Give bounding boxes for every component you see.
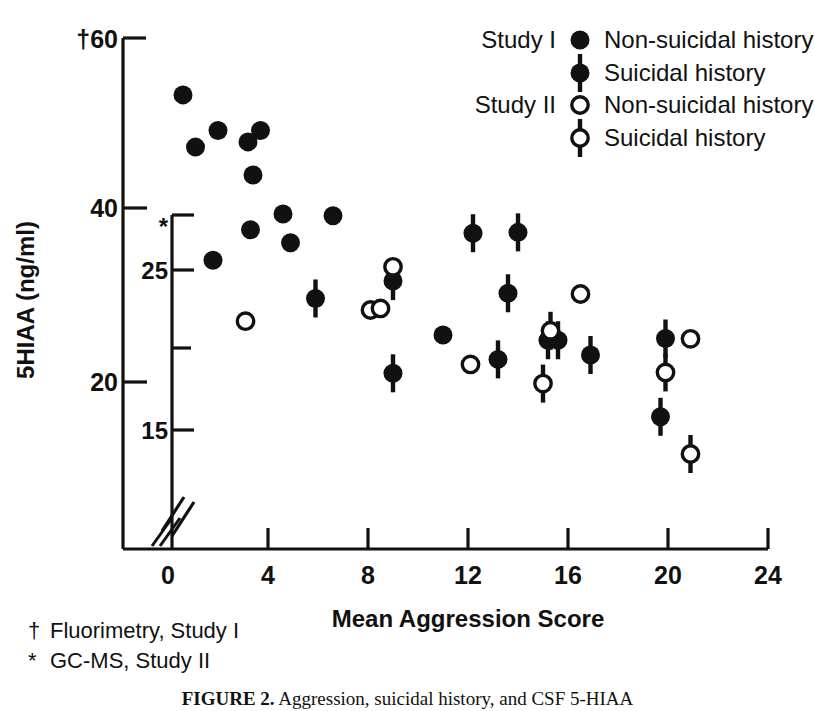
- data-point: [499, 274, 518, 312]
- data-point: [244, 165, 263, 184]
- footnote-1-symbol: †: [28, 618, 40, 643]
- filled-circle-bar-marker: [464, 214, 483, 252]
- data-point: [462, 356, 478, 372]
- legend-marker-open-circle-bar: [572, 119, 588, 157]
- data-point: [656, 320, 675, 358]
- footnotes: † Fluorimetry, Study I * GC-MS, Study II: [28, 618, 239, 673]
- data-point: [489, 340, 508, 378]
- filled-circle-marker: [281, 233, 300, 252]
- figure-caption: FIGURE 2. Aggression, suicidal history, …: [0, 684, 815, 711]
- filled-circle-marker: [241, 220, 260, 239]
- legend-study-2: Study II: [475, 91, 556, 118]
- footnote-1-text: Fluorimetry, Study I: [50, 618, 239, 643]
- y-tick-label-inner-25: 25: [141, 257, 168, 284]
- filled-circle-bar-marker: [581, 336, 600, 374]
- data-point: [209, 121, 228, 140]
- data-point: [509, 213, 528, 251]
- data-point: [274, 205, 293, 224]
- legend-label-3: Non-suicidal history: [604, 91, 813, 118]
- data-point: [464, 214, 483, 252]
- data-point: [372, 300, 388, 316]
- open-circle-marker: [385, 259, 401, 275]
- filled-circle-marker: [174, 85, 193, 104]
- data-point: [306, 279, 325, 317]
- filled-circle-marker: [244, 165, 263, 184]
- data-point: [572, 286, 588, 302]
- open-circle-marker: [682, 331, 698, 347]
- data-point: [186, 138, 205, 157]
- legend-study-1: Study I: [481, 26, 556, 53]
- legend-marker-filled-circle: [571, 31, 590, 50]
- y-tick-label-outer-40: 40: [90, 194, 118, 222]
- open-circle-bar-marker: [682, 435, 698, 473]
- data-point: [324, 206, 343, 225]
- open-circle-bar-marker: [535, 365, 551, 403]
- filled-circle-marker: [209, 121, 228, 140]
- data-point: [237, 313, 253, 329]
- data-point: [385, 259, 401, 275]
- legend-label-4: Suicidal history: [604, 124, 765, 151]
- filled-circle-marker: [204, 251, 223, 270]
- legend-marker-open-circle: [572, 97, 588, 113]
- y-tick-label-outer-20: 20: [90, 368, 118, 396]
- x-tick-label-0: 0: [161, 561, 175, 589]
- data-point: [651, 398, 670, 436]
- legend-marker-filled-circle-bar: [571, 54, 590, 92]
- filled-circle-marker: [251, 121, 270, 140]
- data-point: [434, 326, 453, 345]
- filled-circle-bar-marker: [306, 279, 325, 317]
- filled-circle-marker: [186, 138, 205, 157]
- scatter-plot: †60 40 20 † 25 15 * 0: [0, 0, 815, 684]
- footnote-2-text: GC-MS, Study II: [50, 648, 210, 673]
- filled-circle-bar-marker: [656, 320, 675, 358]
- data-point: [251, 121, 270, 140]
- data-point: [657, 353, 673, 391]
- x-tick-label-4: 4: [261, 561, 275, 589]
- open-circle-marker: [237, 313, 253, 329]
- figure-container: †60 40 20 † 25 15 * 0: [0, 0, 815, 711]
- open-circle-bar-marker: [657, 353, 673, 391]
- x-tick-label-12: 12: [454, 561, 482, 589]
- data-point: [682, 435, 698, 473]
- data-point: [281, 233, 300, 252]
- y-axis-inner-ticks: [172, 270, 194, 430]
- y-tick-label-outer-60: †60: [76, 25, 118, 53]
- filled-circle-marker: [274, 205, 293, 224]
- y-axis-break-hatch: [162, 497, 194, 536]
- filled-circle-bar-marker: [499, 274, 518, 312]
- data-point: [384, 354, 403, 392]
- footnote-2-symbol: *: [28, 648, 37, 673]
- legend-label-1: Non-suicidal history: [604, 26, 813, 53]
- filled-circle-marker: [434, 326, 453, 345]
- open-circle-marker: [572, 286, 588, 302]
- x-axis-title: Mean Aggression Score: [332, 605, 605, 632]
- open-circle-marker: [462, 356, 478, 372]
- y-axis-title: 5HIAA (ng/ml): [12, 221, 39, 379]
- x-axis-ticks: [268, 528, 668, 549]
- caption-text: Aggression, suicidal history, and CSF 5-…: [278, 688, 633, 709]
- filled-circle-bar-marker: [651, 398, 670, 436]
- data-point: [535, 365, 551, 403]
- y-axis-inner-star: *: [159, 213, 169, 240]
- legend: Study I Non-suicidal history Suicidal hi…: [475, 26, 814, 157]
- filled-circle-bar-marker: [384, 354, 403, 392]
- data-point: [174, 85, 193, 104]
- y-tick-label-inner-15: 15: [141, 417, 168, 444]
- filled-circle-bar-marker: [509, 213, 528, 251]
- data-point: [204, 251, 223, 270]
- open-circle-marker: [372, 300, 388, 316]
- y-axis-outer-ticks: [123, 208, 147, 382]
- x-tick-label-24: 24: [754, 561, 782, 589]
- caption-label: FIGURE 2.: [182, 688, 275, 709]
- data-point: [581, 336, 600, 374]
- data-point: [241, 220, 260, 239]
- x-tick-label-16: 16: [554, 561, 582, 589]
- x-tick-label-8: 8: [361, 561, 375, 589]
- filled-circle-bar-marker: [489, 340, 508, 378]
- legend-label-2: Suicidal history: [604, 59, 765, 86]
- data-point: [682, 331, 698, 347]
- filled-circle-marker: [324, 206, 343, 225]
- x-tick-label-20: 20: [654, 561, 682, 589]
